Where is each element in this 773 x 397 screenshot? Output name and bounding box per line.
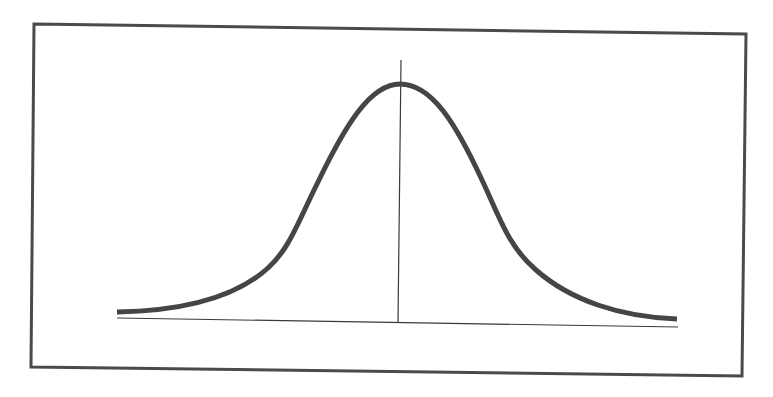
diagram-svg	[0, 0, 773, 397]
diagram-frame	[31, 24, 746, 376]
mean-center-line	[398, 60, 401, 323]
bell-curve	[117, 84, 677, 319]
bell-curve-diagram	[0, 0, 773, 397]
